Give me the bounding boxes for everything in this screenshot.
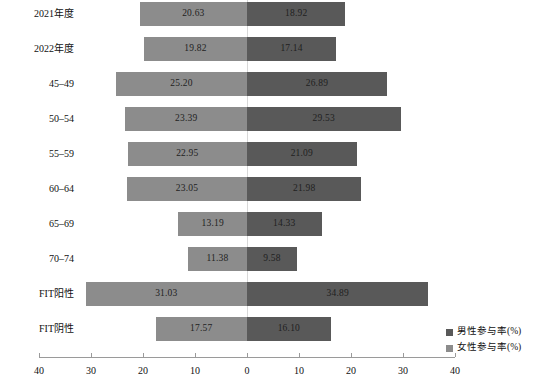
axis-line [39,357,455,358]
category-label: FIT阳性 [0,282,74,306]
bar-female[interactable]: 22.95 [128,142,247,166]
bar-value-label: 18.92 [285,9,307,19]
category-label: 45–49 [0,72,74,96]
bar-male[interactable]: 16.10 [247,317,331,341]
bar-row: 13.1914.33 [0,212,543,236]
bar-value-label: 9.58 [263,254,280,264]
axis-tick-label: 30 [388,365,418,376]
axis-tick [299,353,300,357]
bar-row: 23.0521.98 [0,177,543,201]
bar-value-label: 13.19 [202,219,224,229]
bar-male[interactable]: 26.89 [247,72,387,96]
bar-female[interactable]: 11.38 [188,247,247,271]
bar-row: 19.8217.14 [0,37,543,61]
bar-male[interactable]: 17.14 [247,37,336,61]
bar-female[interactable]: 20.63 [140,2,247,26]
bar-male[interactable]: 18.92 [247,2,345,26]
bar-female[interactable]: 23.39 [125,107,247,131]
bar-value-label: 23.39 [175,114,197,124]
axis-tick [91,353,92,357]
bar-value-label: 16.10 [278,324,300,334]
bar-row: 11.389.58 [0,247,543,271]
axis-tick-label: 10 [284,365,314,376]
category-label: 2022年度 [0,37,74,61]
axis-tick-label: 10 [180,365,210,376]
bar-value-label: 29.53 [313,114,335,124]
bar-value-label: 31.03 [155,289,177,299]
chart-legend: 男性参与率(%) 女性参与率(%) [446,324,521,356]
axis-tick-label: 0 [232,365,262,376]
bar-value-label: 17.14 [280,44,302,54]
axis-tick [247,353,248,357]
bar-male[interactable]: 9.58 [247,247,297,271]
bar-female[interactable]: 19.82 [144,37,247,61]
bar-male[interactable]: 21.09 [247,142,357,166]
bar-value-label: 22.95 [176,149,198,159]
axis-tick [403,353,404,357]
category-label: 70–74 [0,247,74,271]
bar-value-label: 34.89 [327,289,349,299]
legend-label-male: 男性参与率(%) [457,327,521,337]
axis-tick-label: 40 [24,365,54,376]
legend-item-male[interactable]: 男性参与率(%) [446,324,521,340]
legend-swatch-female-icon [446,345,453,352]
bar-male[interactable]: 34.89 [247,282,428,306]
axis-tick-label: 40 [440,365,470,376]
axis-tick [39,353,40,357]
bar-value-label: 20.63 [182,9,204,19]
category-label: 55–59 [0,142,74,166]
axis-tick-label: 20 [128,365,158,376]
bar-row: 31.0334.89 [0,282,543,306]
bar-value-label: 14.33 [273,219,295,229]
bar-value-label: 19.82 [184,44,206,54]
legend-label-female: 女性参与率(%) [457,343,521,353]
category-label: 60–64 [0,177,74,201]
bar-female[interactable]: 25.20 [116,72,247,96]
bar-value-label: 17.57 [190,324,212,334]
bar-male[interactable]: 21.98 [247,177,361,201]
axis-tick [195,353,196,357]
bar-value-label: 23.05 [176,184,198,194]
population-pyramid-chart: 20.6318.9219.8217.1425.2026.8923.3929.53… [0,0,543,391]
bar-row: 23.3929.53 [0,107,543,131]
bar-female[interactable]: 13.19 [178,212,247,236]
bar-male[interactable]: 14.33 [247,212,322,236]
category-label: 65–69 [0,212,74,236]
bar-value-label: 21.09 [291,149,313,159]
category-label: 2021年度 [0,2,74,26]
bar-value-label: 26.89 [306,79,328,89]
legend-item-female[interactable]: 女性参与率(%) [446,340,521,356]
bar-female[interactable]: 23.05 [127,177,247,201]
bar-female[interactable]: 31.03 [86,282,247,306]
bar-value-label: 11.38 [206,254,228,264]
category-label: FIT阴性 [0,317,74,341]
bar-row: 22.9521.09 [0,142,543,166]
bar-value-label: 25.20 [170,79,192,89]
legend-swatch-male-icon [446,329,453,336]
axis-tick-label: 20 [336,365,366,376]
bar-row: 20.6318.92 [0,2,543,26]
axis-tick [143,353,144,357]
axis-tick [351,353,352,357]
category-label: 50–54 [0,107,74,131]
bar-value-label: 21.98 [293,184,315,194]
axis-tick-label: 30 [76,365,106,376]
bar-row: 25.2026.89 [0,72,543,96]
bar-female[interactable]: 17.57 [156,317,247,341]
bar-male[interactable]: 29.53 [247,107,401,131]
